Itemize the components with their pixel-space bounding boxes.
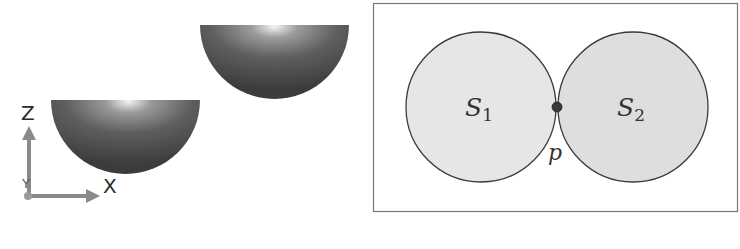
y-axis-label: Y [21,176,30,191]
upper-right-bowl [200,25,349,99]
z-arrowhead-icon [22,126,36,140]
right-panel: S1 S2 p [374,4,738,212]
x-arrowhead-icon [86,189,100,203]
label-p: p [548,140,562,165]
left-panel: Z X Y [21,25,349,203]
contact-point-p [552,102,562,112]
x-axis-label: X [103,174,117,198]
y-axis-origin [24,192,32,200]
lower-left-bowl [51,100,200,174]
z-axis-label: Z [21,101,35,125]
figure-canvas: Z X Y S1 S2 p [0,0,740,249]
